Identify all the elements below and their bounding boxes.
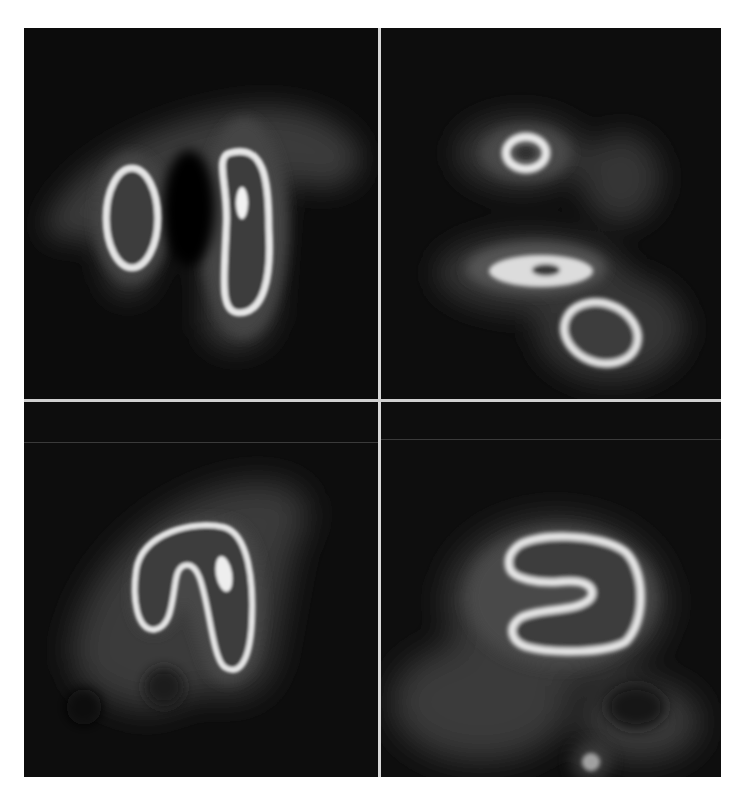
vertical-divider [378, 28, 381, 777]
panel-top-left [24, 28, 378, 399]
scan-slice-top-left [24, 28, 378, 399]
panel-top-right [381, 28, 721, 399]
horizontal-divider [24, 399, 721, 402]
panel-bottom-right [381, 402, 721, 777]
scan-figure [24, 28, 721, 777]
panel-bottom-left [24, 402, 378, 777]
scan-slice-bottom-left [24, 402, 378, 777]
scan-slice-top-right [381, 28, 721, 399]
scan-slice-bottom-right [381, 402, 721, 777]
